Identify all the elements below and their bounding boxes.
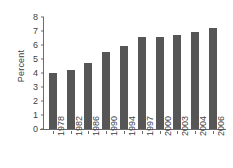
bar-slot: [204, 17, 222, 129]
x-axis-tick-mark: [195, 131, 196, 134]
x-axis-tick-mark: [106, 131, 107, 134]
x-axis-tick-mark: [177, 131, 178, 134]
x-axis-tick: 2006: [204, 131, 222, 168]
y-axis-tick-label: 6: [33, 41, 41, 50]
y-axis-tick-label: 2: [33, 97, 41, 106]
y-axis-tick-label: 3: [33, 83, 41, 92]
y-axis-tick-label: 0: [33, 125, 41, 134]
bar-slot: [186, 17, 204, 129]
y-axis-tick: 1: [33, 111, 44, 120]
bar-slot: [97, 17, 115, 129]
x-axis-tick: 1986: [80, 131, 98, 168]
x-axis-tick-mark: [71, 131, 72, 134]
x-axis-tick: 2004: [186, 131, 204, 168]
bar-slot: [169, 17, 187, 129]
y-axis-tick-label: 1: [33, 111, 41, 120]
y-axis-tick: 5: [33, 55, 44, 64]
x-axis-tick-label: 2006: [217, 116, 226, 136]
x-axis-tick: 2003: [169, 131, 187, 168]
bar-slot: [44, 17, 62, 129]
x-axis-tick-mark: [88, 131, 89, 134]
x-axis-tick-mark: [160, 131, 161, 134]
x-axis-tick: 1982: [62, 131, 80, 168]
y-axis-tick-label: 8: [33, 13, 41, 22]
y-axis-tick: 8: [33, 13, 44, 22]
y-axis-title-label: Percent: [16, 49, 26, 81]
x-axis-tick-mark: [53, 131, 54, 134]
bar-slot: [151, 17, 169, 129]
y-axis-title: Percent: [14, 0, 28, 131]
x-axis-tick: 1997: [133, 131, 151, 168]
bar-series: [44, 17, 222, 129]
plot-area: 876543210: [44, 17, 222, 129]
x-axis-ticks: 1978198219861990199419972000200320042006: [44, 131, 222, 168]
y-axis-tick: 0: [33, 125, 44, 134]
bar: [209, 28, 217, 129]
x-axis-tick: 2000: [151, 131, 169, 168]
bar-slot: [133, 17, 151, 129]
x-axis-tick: 1978: [44, 131, 62, 168]
y-axis-tick-label: 5: [33, 55, 41, 64]
y-axis-tick-label: 4: [33, 69, 41, 78]
x-axis-tick-mark: [213, 131, 214, 134]
y-axis-tick: 2: [33, 97, 44, 106]
bar-slot: [115, 17, 133, 129]
y-axis-tick: 3: [33, 83, 44, 92]
y-axis-tick: 4: [33, 69, 44, 78]
y-axis-tick: 7: [33, 27, 44, 36]
x-axis-tick-mark: [124, 131, 125, 134]
bar-slot: [80, 17, 98, 129]
x-axis-tick-mark: [142, 131, 143, 134]
x-axis-tick: 1994: [115, 131, 133, 168]
x-axis-tick: 1990: [97, 131, 115, 168]
bar-chart: Percent 876543210 1978198219861990199419…: [0, 0, 233, 168]
y-axis-tick-label: 7: [33, 27, 41, 36]
bar: [173, 35, 181, 129]
bar: [191, 32, 199, 129]
y-axis-tick: 6: [33, 41, 44, 50]
bar-slot: [62, 17, 80, 129]
